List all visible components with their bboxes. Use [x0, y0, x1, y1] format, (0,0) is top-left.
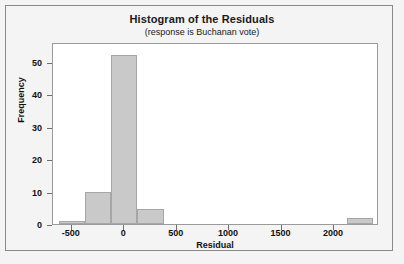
x-axis-label: Residual: [52, 240, 378, 250]
y-tick-mark: [47, 95, 52, 96]
chart-title: Histogram of the Residuals: [0, 13, 404, 25]
y-tick-mark: [47, 193, 52, 194]
y-tick-mark: [47, 225, 52, 226]
histogram-bar: [137, 209, 163, 224]
y-tick-label: 0: [14, 220, 42, 230]
plot-area: [52, 43, 378, 225]
x-tick-label: 500: [151, 228, 201, 238]
y-tick-mark: [47, 160, 52, 161]
bars-group: [53, 44, 377, 224]
y-tick-mark: [47, 63, 52, 64]
y-tick-label: 10: [14, 188, 42, 198]
histogram-bar: [347, 218, 373, 225]
y-tick-label: 20: [14, 155, 42, 165]
x-tick-label: 1000: [203, 228, 253, 238]
y-axis-label: Frequency: [16, 55, 26, 145]
chart-subtitle: (response is Buchanan vote): [0, 27, 404, 37]
x-tick-label: 0: [98, 228, 148, 238]
histogram-bar: [85, 192, 111, 225]
y-tick-mark: [47, 128, 52, 129]
histogram-figure: Histogram of the Residuals (response is …: [0, 0, 404, 264]
x-tick-label: 1500: [256, 228, 306, 238]
x-tick-label: -500: [46, 228, 96, 238]
histogram-bar: [111, 55, 137, 224]
histogram-bar: [59, 221, 85, 224]
x-tick-label: 2000: [308, 228, 358, 238]
